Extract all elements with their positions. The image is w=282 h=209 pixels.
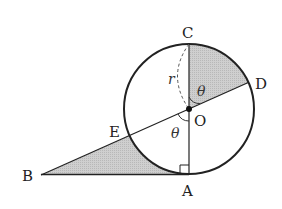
- label-d: D: [255, 75, 267, 93]
- label-o: O: [194, 112, 206, 130]
- geometry-diagram: C D O E B A r θ θ: [0, 0, 282, 209]
- radius-dashed-arc: [178, 44, 190, 109]
- label-e: E: [109, 123, 120, 141]
- shaded-sector-cod: [189, 44, 248, 109]
- label-r: r: [168, 71, 176, 87]
- center-point-o: [186, 106, 192, 112]
- label-theta-bottom: θ: [171, 125, 180, 141]
- angle-arc-eoa: [178, 114, 189, 121]
- label-a: A: [181, 182, 193, 200]
- label-b: B: [22, 167, 33, 185]
- label-c: C: [182, 24, 193, 42]
- label-theta-top: θ: [197, 83, 206, 99]
